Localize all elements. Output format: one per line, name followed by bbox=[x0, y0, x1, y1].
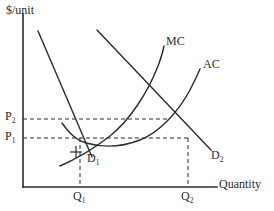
d1-label-subscript: 1 bbox=[96, 158, 100, 167]
mc-curve-label: MC bbox=[166, 35, 185, 47]
p1-label-subscript: 1 bbox=[12, 136, 16, 145]
q1-quantity-label: Q1 bbox=[73, 190, 85, 205]
p1-price-label: P1 bbox=[5, 130, 15, 145]
q1-label-text: Q bbox=[73, 189, 82, 203]
p2-label-text: P bbox=[5, 109, 12, 123]
ac-curve-label: AC bbox=[203, 58, 220, 70]
y-axis-label: $/unit bbox=[6, 4, 34, 16]
price-guides bbox=[23, 119, 188, 138]
p2-label-subscript: 2 bbox=[12, 116, 16, 125]
d1-curve-label: D1 bbox=[87, 152, 99, 167]
economics-diagram: $/unit Quantity MC AC D1 D2 P2 P1 Q1 Q2 bbox=[0, 0, 274, 211]
q1-label-subscript: 1 bbox=[82, 196, 86, 205]
q2-label-subscript: 2 bbox=[190, 196, 194, 205]
curve-group bbox=[38, 30, 211, 166]
q2-label-text: Q bbox=[181, 189, 190, 203]
q2-quantity-label: Q2 bbox=[181, 190, 193, 205]
x-axis-label: Quantity bbox=[219, 178, 261, 190]
d2-label-subscript: 2 bbox=[220, 155, 224, 164]
ac-label-text: AC bbox=[203, 57, 220, 71]
p1-label-text: P bbox=[5, 129, 12, 143]
d2-label-text: D bbox=[211, 148, 220, 162]
d1-label-text: D bbox=[87, 151, 96, 165]
mc-label-text: MC bbox=[166, 34, 185, 48]
d2-curve-label: D2 bbox=[211, 149, 223, 164]
p2-price-label: P2 bbox=[5, 110, 15, 125]
